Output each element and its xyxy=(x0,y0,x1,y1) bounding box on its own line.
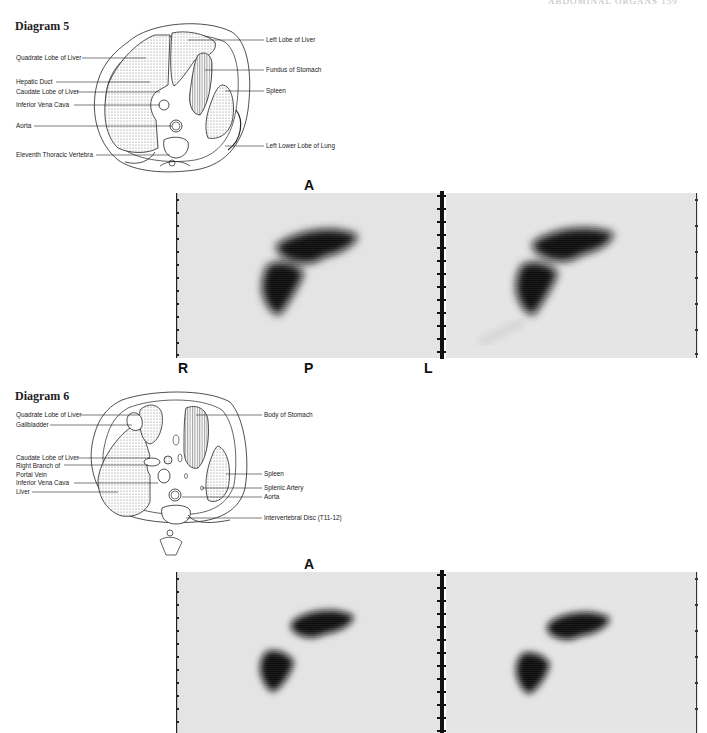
scan-5-left-label: L xyxy=(424,360,433,376)
scan-6-left-image xyxy=(176,572,440,733)
label-caudate-lobe-of-liver: Caudate Lobe of Liver xyxy=(16,88,79,96)
scan-5-left-uptake xyxy=(176,193,440,358)
label-portal-vein: Portal Vein xyxy=(16,471,47,479)
label-fundus-of-stomach: Fundus of Stomach xyxy=(266,66,321,74)
scan-5-right-uptake xyxy=(446,193,698,358)
scan-6-right-uptake xyxy=(446,572,698,733)
scan-5-right-image xyxy=(446,193,698,358)
label-inferior-vena-cava: Inferior Vena Cava xyxy=(16,101,69,109)
label-eleventh-thoracic-vertebra: Eleventh Thoracic Vertebra xyxy=(16,151,93,159)
label-aorta-6: Aorta xyxy=(264,493,279,501)
scan-5-left-image xyxy=(176,193,440,358)
label-aorta: Aorta xyxy=(16,122,31,130)
label-caudate-lobe-of-liver-6: Caudate Lobe of Liver xyxy=(16,454,79,462)
label-body-of-stomach: Body of Stomach xyxy=(264,411,313,419)
label-spleen-6: Spleen xyxy=(264,470,284,478)
label-inferior-vena-cava-6: Inferior Vena Cava xyxy=(16,479,69,487)
page-header-fragment: ABDOMINAL ORGANS 159 xyxy=(548,0,678,6)
scan-6-anterior-label: A xyxy=(304,556,314,572)
label-splenic-artery: Splenic Artery xyxy=(264,484,303,492)
scan-6-right-image xyxy=(446,572,698,733)
label-quadrate-lobe-of-liver-6: Quadrate Lobe of Liver xyxy=(16,411,81,419)
label-right-branch-of: Right Branch of xyxy=(16,462,60,470)
scan-5-anterior-label: A xyxy=(304,177,314,193)
label-spleen: Spleen xyxy=(266,87,286,95)
label-hepatic-duct: Hepatic Duct xyxy=(16,78,53,86)
label-intervertebral-disc: Intervertebral Disc (T11-12) xyxy=(264,514,342,522)
label-liver: Liver xyxy=(16,488,30,496)
label-left-lower-lobe-of-lung: Left Lower Lobe of Lung xyxy=(266,142,335,150)
label-gallbladder: Gallbladder xyxy=(16,421,49,429)
scan-6-left-uptake xyxy=(176,572,440,733)
label-left-lobe-of-liver: Left Lobe of Liver xyxy=(266,36,315,44)
label-quadrate-lobe-of-liver: Quadrate Lobe of Liver xyxy=(16,54,81,62)
